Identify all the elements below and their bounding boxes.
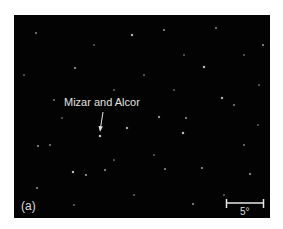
scale-bar-icon [14,15,270,218]
scale-bar-label: 5° [240,207,250,217]
star-field-photo: Mizar and Alcor 5° (a) [14,15,270,218]
panel-label: (a) [21,200,36,212]
